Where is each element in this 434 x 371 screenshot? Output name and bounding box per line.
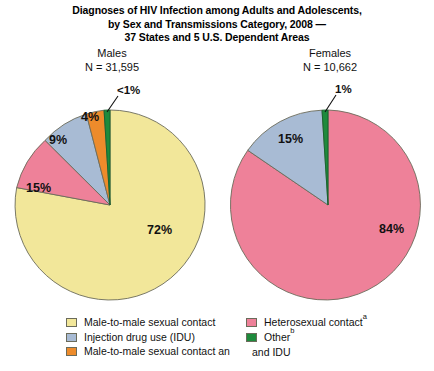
- legend-footnote-marker-b: b: [290, 326, 294, 335]
- females-label-heterosexual: 84%: [379, 222, 404, 236]
- legend-swatch-idu: [66, 333, 77, 342]
- females-label-other: 1%: [335, 83, 352, 95]
- males-label-heterosexual: 15%: [26, 181, 51, 195]
- legend-item-mmsc-and-idu[interactable]: Male-to-male sexual contact an: [66, 345, 230, 358]
- legend-footnote-marker-a: a: [363, 312, 367, 321]
- legend-swatch-heterosexual: [246, 318, 257, 327]
- females-label-idu: 15%: [278, 132, 303, 146]
- legend-label-other: Otherb: [264, 331, 294, 344]
- chart-figure: Diagnoses of HIV Infection among Adults …: [0, 0, 434, 371]
- legend-swatch-other: [246, 333, 257, 342]
- legend-label-continuation: and IDU: [252, 346, 291, 359]
- females-pie: [230, 95, 420, 300]
- males-label-idu: 9%: [49, 133, 67, 147]
- chart-legend: Male-to-male sexual contact Injection dr…: [0, 316, 434, 371]
- legend-label-heterosexual: Heterosexual contacta: [264, 316, 367, 329]
- legend-swatch-male-to-male: [66, 318, 77, 327]
- legend-item-idu[interactable]: Injection drug use (IDU): [66, 331, 230, 344]
- legend-label-male-to-male: Male-to-male sexual contact: [84, 316, 215, 329]
- legend-column-left: Male-to-male sexual contact Injection dr…: [66, 316, 230, 360]
- legend-item-heterosexual[interactable]: Heterosexual contacta: [246, 316, 367, 329]
- males-label-mmsc-and-idu: 4%: [81, 110, 99, 124]
- legend-item-male-to-male[interactable]: Male-to-male sexual contact: [66, 316, 230, 329]
- legend-label-idu: Injection drug use (IDU): [84, 331, 195, 344]
- males-label-other: <1%: [117, 84, 140, 96]
- legend-swatch-mmsc-and-idu: [66, 347, 77, 356]
- legend-item-other[interactable]: Otherb: [246, 331, 367, 344]
- males-pie: [15, 96, 205, 300]
- legend-label-mmsc-and-idu: Male-to-male sexual contact an: [84, 345, 230, 358]
- legend-column-right: Heterosexual contacta Otherb and IDU: [246, 316, 367, 345]
- males-label-male-to-male: 72%: [147, 223, 172, 237]
- females-other-leader-line: [325, 95, 336, 112]
